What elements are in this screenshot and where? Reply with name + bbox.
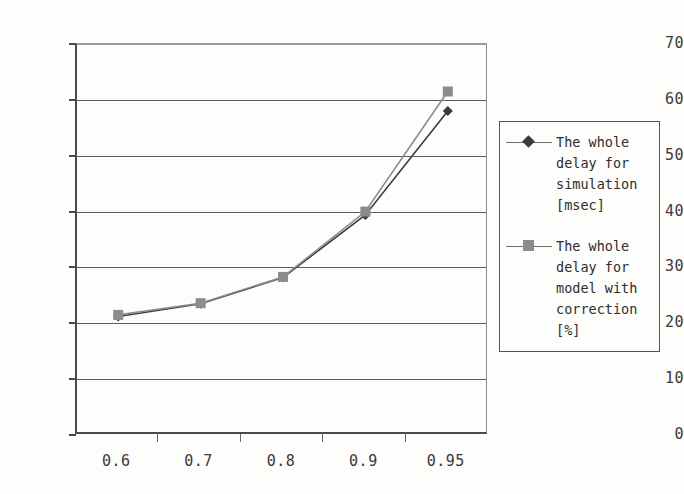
y-tick-label: 60 bbox=[642, 90, 684, 108]
y-tick-label: 0 bbox=[642, 425, 684, 443]
data-point-square bbox=[360, 207, 370, 217]
legend-entry-model-correction: The whole delay for model with correctio… bbox=[500, 236, 659, 341]
x-tick-mark bbox=[322, 434, 323, 442]
x-tick-mark bbox=[405, 434, 406, 442]
legend: The whole delay for simulation [msec] Th… bbox=[499, 121, 660, 352]
legend-label-simulation: The whole delay for simulation [msec] bbox=[556, 132, 637, 216]
data-point-square bbox=[113, 310, 123, 320]
y-tick-label: 10 bbox=[642, 369, 684, 387]
plot-area bbox=[75, 43, 487, 434]
legend-label-model-correction: The whole delay for model with correctio… bbox=[556, 236, 637, 341]
series-line bbox=[118, 111, 448, 317]
y-tick-label: 70 bbox=[642, 34, 684, 52]
x-tick-mark bbox=[157, 434, 158, 442]
x-tick-label: 0.8 bbox=[241, 452, 321, 470]
data-point-square bbox=[443, 86, 453, 96]
x-tick-label: 0.9 bbox=[323, 452, 403, 470]
data-point-square bbox=[196, 298, 206, 308]
chart-page: 010203040506070 0.60.70.80.90.95 The who… bbox=[0, 0, 684, 494]
legend-key-square-icon bbox=[500, 237, 556, 257]
x-tick-mark bbox=[240, 434, 241, 442]
series-canvas bbox=[77, 44, 489, 435]
x-tick-label: 0.95 bbox=[406, 452, 486, 470]
x-tick-label: 0.7 bbox=[159, 452, 239, 470]
x-tick-label: 0.6 bbox=[76, 452, 156, 470]
legend-key-diamond-icon bbox=[500, 133, 556, 153]
legend-entry-simulation: The whole delay for simulation [msec] bbox=[500, 132, 659, 216]
y-tick-mark bbox=[69, 434, 76, 436]
data-point-square bbox=[278, 272, 288, 282]
